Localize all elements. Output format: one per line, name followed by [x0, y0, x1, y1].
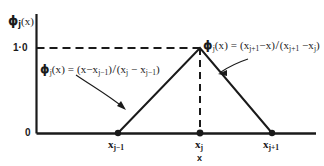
right-formula-annotation: ϕj(x) = (xj+1−x)/(xj+1 −xj) [203, 38, 320, 53]
node-dot-right [269, 130, 275, 136]
right-formula-part-e: ) [316, 39, 320, 51]
y-axis-phi-glyph: ϕ [8, 13, 18, 28]
y-tick-one: 1·0 [13, 43, 27, 53]
left-formula-part-d: − x [128, 63, 146, 75]
node-label-left-sub: j−1 [114, 143, 125, 152]
right-formula-sub-b: j+1 [289, 44, 299, 53]
node-label-right: xj+1 [263, 139, 279, 152]
left-formula-part-c: (x [117, 63, 126, 75]
left-formula-phi: ϕ [40, 62, 50, 76]
left-formula-part-e: ) [156, 63, 160, 75]
right-formula-part-c: (x [280, 39, 289, 51]
node-dot-left [115, 130, 121, 136]
right-formula-phi: ϕ [203, 38, 213, 52]
node-label-peak: xj [195, 139, 203, 152]
y-tick-zero: 0 [25, 128, 31, 138]
right-formula-part-d: −x [299, 39, 314, 51]
node-label-peak-sub: j [201, 143, 204, 152]
right-formula-sub-a: j+1 [249, 44, 259, 53]
node-label-right-sub: j+1 [269, 143, 280, 152]
left-formula-part-a: (x) = (x−x [52, 63, 98, 75]
x-axis-title: x [197, 154, 202, 163]
left-annotation-arrowhead [117, 101, 126, 110]
node-label-left: xj−1 [108, 139, 124, 152]
y-axis-argument: (x) [21, 15, 34, 27]
hat-function-curve [118, 48, 272, 133]
figure-container: ϕj(x) 1·0 0 ϕj(x) = (x−xj−1)/(xj − xj−1)… [0, 0, 324, 166]
y-axis-title: ϕj(x) [8, 14, 34, 29]
left-formula-sub-c: j−1 [146, 68, 156, 77]
right-formula-part-b: −x) [259, 39, 275, 51]
left-annotation-arrow [76, 75, 124, 108]
node-dot-peak [197, 130, 204, 137]
right-annotation-arrow [221, 59, 248, 72]
left-formula-sub-a: j−1 [98, 68, 108, 77]
right-formula-part-a: (x) = (x [215, 39, 250, 51]
left-formula-annotation: ϕj(x) = (x−xj−1)/(xj − xj−1) [40, 62, 160, 77]
